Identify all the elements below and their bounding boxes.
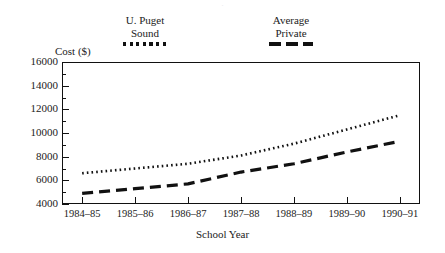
legend-label-line2: Private <box>248 27 334 40</box>
x-axis-tick-label: 1990–91 <box>365 208 435 219</box>
chart-page: · U. Puget Sound Average Private Cost ($… <box>0 0 445 253</box>
x-axis-tick <box>400 197 401 204</box>
legend-label-line2: Sound <box>102 27 188 40</box>
y-axis-title: Cost ($) <box>55 45 91 57</box>
y-axis-tick-minor <box>62 121 66 122</box>
legend-swatch-dotted-icon <box>123 42 167 46</box>
x-axis-tick <box>241 197 242 204</box>
y-axis-tick-major <box>62 157 69 158</box>
y-axis-tick-major <box>62 109 69 110</box>
y-axis-tick-major <box>62 204 69 205</box>
legend-item-u-puget-sound: U. Puget Sound <box>102 14 188 46</box>
y-axis-tick-minor <box>62 74 66 75</box>
y-axis-tick-major <box>62 180 69 181</box>
clipped-text-artifact: · <box>0 0 445 6</box>
x-axis-tick <box>294 197 295 204</box>
y-axis-tick-label: 10000 <box>4 126 58 138</box>
x-axis-tick <box>82 197 83 204</box>
legend-item-average-private: Average Private <box>248 14 334 46</box>
legend-label-line1: Average <box>248 14 334 27</box>
y-axis-tick-major <box>62 133 69 134</box>
y-axis-tick-minor <box>62 145 66 146</box>
y-axis-tick-major <box>62 86 69 87</box>
y-axis-tick-label: 14000 <box>4 79 58 91</box>
x-axis-tick <box>347 197 348 204</box>
y-axis-tick-major <box>62 62 69 63</box>
y-axis-labels: 40006000800010000120001400016000 <box>0 62 58 204</box>
y-axis-tick-minor <box>62 169 66 170</box>
legend-swatch-dashed-icon <box>269 42 313 46</box>
y-axis-tick-minor <box>62 98 66 99</box>
legend-label-line1: U. Puget <box>102 14 188 27</box>
plot-area <box>62 62 420 204</box>
x-axis-title: School Year <box>0 228 445 240</box>
y-axis-tick-label: 6000 <box>4 173 58 185</box>
x-axis-tick <box>135 197 136 204</box>
y-axis-tick-label: 12000 <box>4 102 58 114</box>
y-axis-tick-label: 16000 <box>4 55 58 67</box>
x-axis-tick <box>188 197 189 204</box>
y-axis-tick-label: 8000 <box>4 150 58 162</box>
y-axis-tick-minor <box>62 192 66 193</box>
